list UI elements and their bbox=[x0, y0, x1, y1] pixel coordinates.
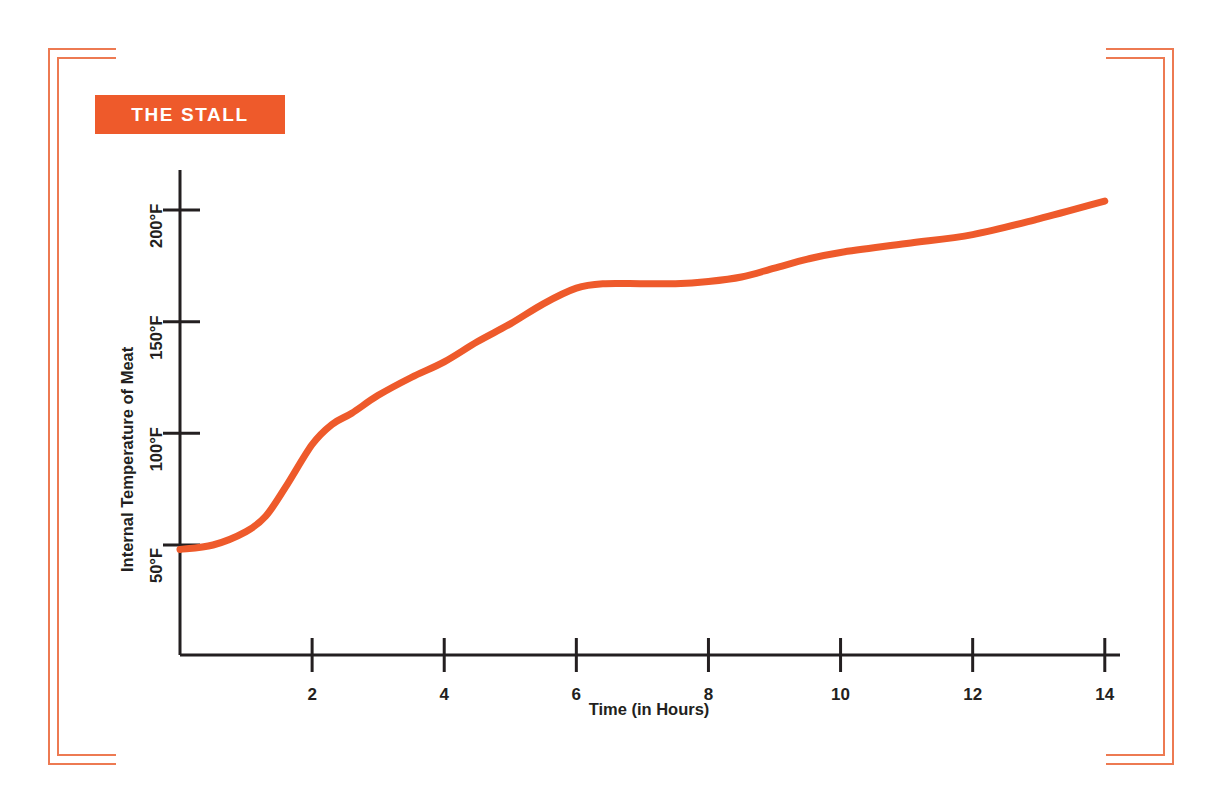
plot-area bbox=[0, 0, 1220, 802]
temperature-curve bbox=[180, 201, 1105, 549]
chart-page: THE STALL Internal Temperature of Meat T… bbox=[0, 0, 1220, 802]
axis-lines bbox=[180, 170, 1120, 655]
